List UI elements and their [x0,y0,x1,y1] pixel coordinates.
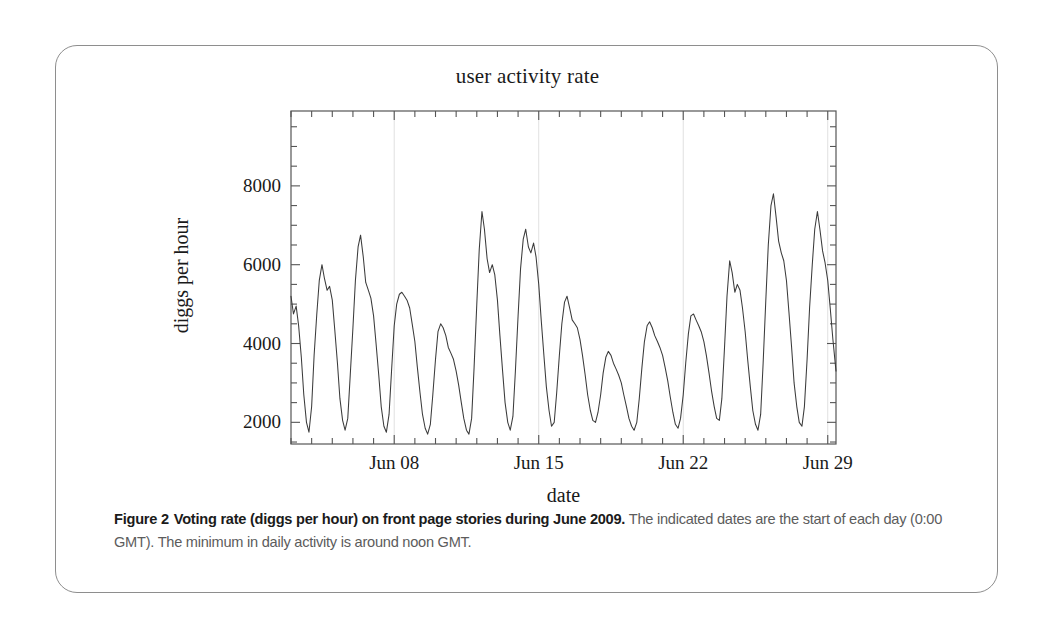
x-axis-label: date [231,484,896,507]
x-tick-label: Jun 15 [479,452,599,474]
gridlines-group [394,111,828,444]
chart-plot-block: user activity rate 2000400060008000 Jun … [56,46,999,506]
caption-title: Voting rate (diggs per hour) on front pa… [174,511,625,527]
axis-ticks-group [291,111,836,444]
x-tick-label: Jun 22 [623,452,743,474]
x-tick-label: Jun 29 [768,452,888,474]
y-tick-label: 6000 [195,254,281,276]
y-tick-label: 2000 [195,411,281,433]
chart-canvas [56,46,999,506]
y-axis-label: diggs per hour [170,165,193,385]
y-tick-label: 8000 [195,175,281,197]
x-tick-label: Jun 08 [334,452,454,474]
y-tick-label: 4000 [195,333,281,355]
data-series-line [291,194,836,434]
caption-figure-number: Figure 2 [114,511,169,527]
figure-card: user activity rate 2000400060008000 Jun … [55,45,998,593]
figure-caption: Figure 2Voting rate (diggs per hour) on … [114,508,954,554]
plot-frame [291,111,836,444]
